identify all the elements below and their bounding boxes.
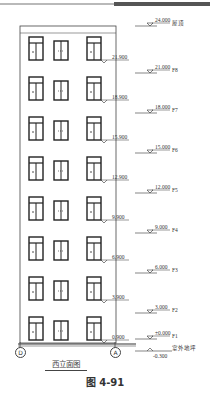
roof-level-label: 屋顶 [172,20,184,27]
sill-level-triangle-icon [101,220,107,223]
floor-level-f7-triangle-icon [147,110,153,113]
axis-label-d: D [18,349,23,356]
floor-level-f1-triangle-icon [147,336,153,339]
sill-level-value: 21.900 [112,54,127,60]
floor-level-f8-elevation: 21.000 [155,64,170,70]
sill-level-triangle-icon [101,140,107,143]
floor-level-f8-label: F8 [172,67,178,73]
sill-level-value: 3.900 [112,294,125,300]
floor-level-f3-elevation: 6.000 [155,264,168,270]
floor-level-f2-elevation: 3.000 [155,304,168,310]
figure-caption: 图 4-91 [0,374,210,389]
roof-level-triangle-icon [147,23,153,26]
floor-level-f4-triangle-icon [147,230,153,233]
ground-level-elevation: -0.300 [153,353,167,359]
sill-level-triangle-icon [101,180,107,183]
floor-level-f6-elevation: 15.000 [155,144,170,150]
sill-level-value: 15.900 [112,134,127,140]
floor-level-f4-label: F4 [172,227,178,233]
sill-level-triangle-icon [101,260,107,263]
roof-level-elevation: 24.000 [155,17,170,23]
axis-bubble-d: D [15,347,26,358]
floor-level-f4-elevation: 9.000 [155,224,168,230]
floor-level-f5-label: F5 [172,187,178,193]
west-elevation-drawing: 21.90018.90015.90012.9009.9006.9003.9000… [0,0,210,410]
sill-level-triangle-icon [101,60,107,63]
floor-level-f5-elevation: 12.000 [155,184,170,190]
sill-level-value: 6.900 [112,254,125,260]
sill-level-value: 0.900 [112,334,125,340]
floor-level-f2-label: F2 [172,307,178,313]
axis-bubble-a: A [110,347,121,358]
floor-level-f8-triangle-icon [147,70,153,73]
floor-level-f5-triangle-icon [147,190,153,193]
ground-level-triangle-icon [147,348,153,351]
sill-level-triangle-icon [101,340,107,343]
floor-level-f1-label: F1 [172,333,178,339]
sill-level-value: 18.900 [112,94,127,100]
axis-label-a: A [113,349,117,356]
floor-level-f7-elevation: 18.000 [155,104,170,110]
sill-level-value: 9.900 [112,214,125,220]
sill-level-value: 12.900 [112,174,127,180]
floor-level-f1-elevation: ±0.000 [155,330,171,336]
sill-level-triangle-icon [101,300,107,303]
ground-level-label: 室外地坪 [172,344,196,352]
floor-level-f2-triangle-icon [147,310,153,313]
floor-level-f3-triangle-icon [147,270,153,273]
sill-level-triangle-icon [101,100,107,103]
floor-level-f3-label: F3 [172,267,178,273]
floor-level-f6-triangle-icon [147,150,153,153]
floor-level-f6-label: F6 [172,147,178,153]
drawing-title: 西立面图 [45,358,87,371]
floor-level-f7-label: F7 [172,107,178,113]
